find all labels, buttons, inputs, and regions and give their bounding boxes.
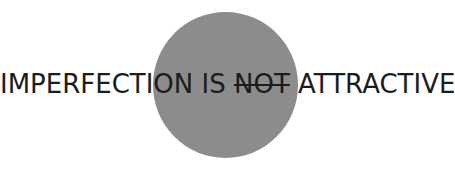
slogan-part-2: ATTRACTIVE xyxy=(290,69,455,99)
slogan-text: IMPERFECTION IS NOT ATTRACTIVE xyxy=(0,66,449,102)
slogan-part-1: IMPERFECTION IS xyxy=(0,69,234,99)
struck-word: NOT xyxy=(234,69,290,99)
